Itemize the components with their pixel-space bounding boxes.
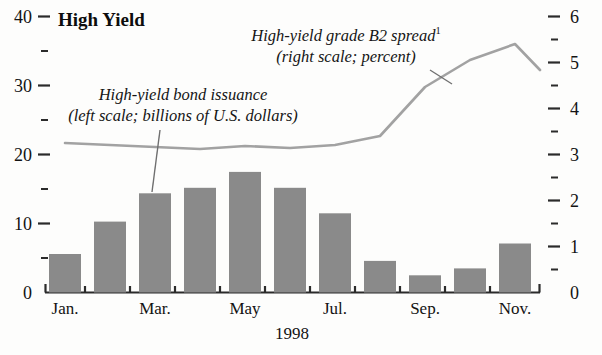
bar-sep xyxy=(409,275,441,292)
bar-jul xyxy=(319,213,351,292)
x-axis-label-jan: Jan. xyxy=(35,300,95,317)
bar-oct xyxy=(454,268,486,292)
annotation-b2-spread: High-yield grade B2 spread1 (right scale… xyxy=(232,24,460,67)
left-axis-label-0: 0 xyxy=(6,284,32,302)
bar-aug xyxy=(364,261,396,293)
annotation-bond-issuance-line1: High-yield bond issuance xyxy=(99,85,268,104)
bar-feb xyxy=(94,222,126,293)
bar-mar xyxy=(139,193,171,292)
bar-nov xyxy=(499,244,531,293)
annotation-b2-spread-line2: (right scale; percent) xyxy=(232,46,460,67)
bar-apr xyxy=(184,188,216,293)
high-yield-chart-figure: 40 30 20 10 0 6 5 4 3 2 1 0 Jan. Mar. Ma… xyxy=(0,0,602,355)
x-axis-label-nov: Nov. xyxy=(485,300,545,317)
right-axis-label-3: 3 xyxy=(570,146,596,164)
bar-jan xyxy=(49,254,81,293)
left-axis-label-30: 30 xyxy=(6,77,32,95)
bar-series-issuance xyxy=(49,172,531,293)
annotation-bond-issuance: High-yield bond issuance (left scale; bi… xyxy=(52,84,314,126)
footnote-marker: 1 xyxy=(435,25,440,36)
annotation-b2-spread-line1: High-yield grade B2 spread xyxy=(251,26,435,45)
x-axis-label-may: May xyxy=(215,300,275,317)
x-axis-year-label: 1998 xyxy=(252,325,332,342)
right-axis-label-0: 0 xyxy=(570,284,596,302)
right-axis-label-6: 6 xyxy=(570,8,596,26)
left-axis-label-20: 20 xyxy=(6,146,32,164)
page-title: High Yield xyxy=(58,10,145,29)
x-axis-label-jul: Jul. xyxy=(305,300,365,317)
right-axis-label-4: 4 xyxy=(570,100,596,118)
bar-may xyxy=(229,172,261,293)
left-axis-label-40: 40 xyxy=(6,8,32,26)
x-axis-label-sep: Sep. xyxy=(395,300,455,317)
annotation-bond-issuance-line2: (left scale; billions of U.S. dollars) xyxy=(52,105,314,126)
left-axis-label-10: 10 xyxy=(6,215,32,233)
right-axis-label-5: 5 xyxy=(570,54,596,72)
right-axis-label-1: 1 xyxy=(570,238,596,256)
bar-annotation-leader-line xyxy=(152,130,160,192)
x-axis-label-mar: Mar. xyxy=(125,300,185,317)
right-axis-label-2: 2 xyxy=(570,192,596,210)
bar-jun xyxy=(274,188,306,293)
